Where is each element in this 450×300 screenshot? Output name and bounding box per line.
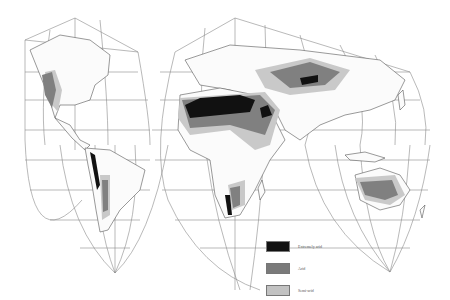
legend-item-arid: Arid [266, 260, 386, 276]
legend-label: Arid [298, 266, 305, 271]
legend-swatch [266, 285, 290, 296]
north-america [30, 35, 110, 118]
legend-item-extremely-arid: Extremely arid [266, 238, 386, 254]
legend-label: Extremely arid [298, 244, 322, 249]
map-legend: Extremely arid Arid Semi-arid [266, 238, 386, 300]
legend-swatch [266, 241, 290, 252]
legend-item-semi-arid: Semi-arid [266, 282, 386, 298]
legend-swatch [266, 263, 290, 274]
legend-label: Semi-arid [298, 288, 314, 293]
